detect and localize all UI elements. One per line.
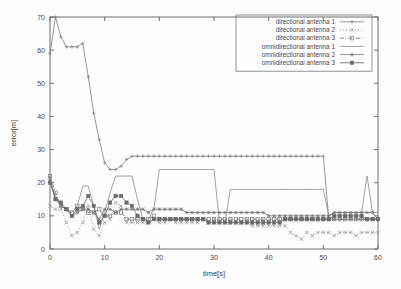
series-marker — [98, 234, 101, 237]
x-tick-label: 60 — [374, 254, 382, 261]
legend-label: omnidirectional antenna 2 — [262, 51, 336, 58]
series-marker — [267, 221, 270, 224]
series-marker — [174, 221, 177, 224]
series-marker — [70, 234, 73, 237]
series-marker — [147, 211, 150, 214]
series-marker — [283, 214, 286, 217]
series-marker — [108, 201, 111, 204]
series-marker — [81, 221, 84, 224]
series-marker — [333, 211, 336, 214]
series-marker — [125, 201, 128, 204]
series-marker — [158, 155, 161, 158]
series-marker — [196, 211, 199, 214]
series-marker — [87, 194, 90, 197]
series-marker — [180, 217, 183, 220]
x-tick-label: 20 — [155, 254, 163, 261]
series-marker — [103, 214, 106, 217]
series-marker — [180, 155, 183, 158]
series-marker — [229, 155, 232, 158]
series-marker — [59, 208, 62, 211]
series-marker — [76, 211, 79, 214]
legend-label: directional antenna 2 — [276, 26, 336, 33]
series-marker — [365, 217, 368, 220]
series-marker — [70, 214, 73, 217]
series-marker — [190, 217, 193, 220]
series-marker — [119, 208, 122, 211]
series-marker — [294, 155, 297, 158]
series-marker — [311, 214, 314, 217]
series-marker — [316, 214, 319, 217]
series-marker — [305, 155, 308, 158]
series-marker — [245, 211, 248, 214]
series-marker — [136, 221, 139, 224]
y-axis-label: error[m] — [9, 120, 18, 146]
series-marker — [65, 221, 68, 224]
series-marker — [136, 155, 139, 158]
series-marker — [305, 217, 308, 220]
series-marker — [158, 208, 161, 211]
series-marker — [294, 214, 297, 217]
series-marker — [272, 221, 275, 224]
series-marker — [327, 217, 330, 220]
series-marker — [152, 208, 155, 211]
series-marker — [48, 52, 51, 55]
series-marker — [59, 201, 62, 204]
series-marker — [59, 35, 62, 38]
series-marker — [234, 155, 237, 158]
series-marker — [180, 221, 183, 224]
series-marker — [338, 211, 341, 214]
series-marker — [119, 194, 122, 197]
series-marker — [196, 217, 199, 220]
series-marker — [103, 208, 106, 211]
series-marker — [294, 234, 297, 237]
series-marker — [354, 211, 357, 214]
series-marker — [212, 221, 215, 224]
series-marker — [130, 155, 133, 158]
series-marker — [169, 217, 172, 220]
series-marker — [256, 217, 259, 220]
y-tick-label: 50 — [37, 80, 45, 87]
series-marker — [360, 214, 363, 217]
series-marker — [108, 208, 111, 211]
series-marker — [240, 221, 243, 224]
series-marker — [76, 45, 79, 48]
series-marker — [92, 204, 95, 207]
series-marker — [212, 155, 215, 158]
series-marker — [130, 204, 133, 207]
series-marker — [283, 224, 286, 227]
x-tick-label: 10 — [101, 254, 109, 261]
series-marker — [169, 208, 172, 211]
series-marker — [169, 155, 172, 158]
series-marker — [114, 168, 117, 171]
chart-figure: 0102030405060010203040506070time[s]error… — [0, 0, 401, 289]
series-marker — [333, 234, 336, 237]
series-marker — [338, 214, 341, 217]
series-marker — [125, 208, 128, 211]
x-tick-label: 0 — [48, 254, 52, 261]
series-marker — [344, 211, 347, 214]
series-marker — [92, 227, 95, 230]
series-marker — [103, 221, 106, 224]
legend-sample-marker — [350, 28, 353, 31]
series-marker — [196, 155, 199, 158]
series-marker — [251, 155, 254, 158]
series-marker — [300, 214, 303, 217]
series-marker — [278, 221, 281, 224]
series-marker — [305, 214, 308, 217]
series-marker — [223, 211, 226, 214]
series-marker — [289, 155, 292, 158]
series-marker — [311, 217, 314, 220]
series-marker — [59, 204, 62, 207]
series-marker — [251, 221, 254, 224]
series-marker — [76, 208, 79, 211]
series-marker — [152, 214, 155, 217]
series-marker — [108, 217, 111, 220]
series-marker — [54, 15, 57, 18]
series-marker — [98, 138, 101, 141]
legend-label: omnidirectional antenna 1 — [262, 43, 336, 50]
series-marker — [234, 221, 237, 224]
series-marker — [163, 155, 166, 158]
series-marker — [240, 155, 243, 158]
series-marker — [81, 42, 84, 45]
series-marker — [278, 155, 281, 158]
